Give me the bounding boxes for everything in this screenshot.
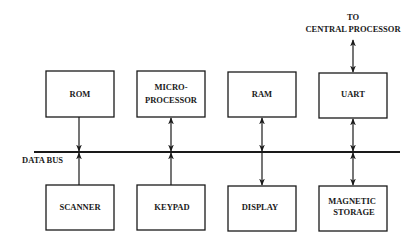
block-diagram: TO CENTRAL PROCESSOR DATA BUS ROM MICRO-… bbox=[0, 0, 419, 245]
svg-text:KEYPAD: KEYPAD bbox=[154, 202, 189, 212]
svg-text:DISPLAY: DISPLAY bbox=[242, 202, 279, 212]
block-magnetic-storage: MAGNETIC STORAGE bbox=[319, 186, 387, 231]
block-scanner: SCANNER bbox=[46, 185, 114, 230]
svg-text:MICRO-: MICRO- bbox=[154, 82, 187, 92]
data-bus-label: DATA BUS bbox=[22, 155, 63, 165]
block-keypad: KEYPAD bbox=[137, 185, 205, 230]
svg-text:MAGNETIC: MAGNETIC bbox=[328, 196, 376, 206]
block-display: DISPLAY bbox=[228, 186, 296, 231]
svg-text:SCANNER: SCANNER bbox=[59, 202, 101, 212]
svg-text:UART: UART bbox=[341, 89, 365, 99]
block-uart: UART bbox=[319, 73, 387, 118]
block-rom: ROM bbox=[46, 71, 114, 117]
svg-text:ROM: ROM bbox=[70, 89, 91, 99]
block-microprocessor: MICRO- PROCESSOR bbox=[137, 71, 205, 117]
block-ram: RAM bbox=[228, 72, 296, 117]
svg-text:CENTRAL PROCESSOR: CENTRAL PROCESSOR bbox=[305, 24, 401, 34]
svg-text:TO: TO bbox=[347, 12, 360, 22]
central-processor-label: TO CENTRAL PROCESSOR bbox=[305, 12, 401, 34]
svg-text:STORAGE: STORAGE bbox=[333, 207, 375, 217]
svg-text:PROCESSOR: PROCESSOR bbox=[145, 95, 198, 105]
svg-text:RAM: RAM bbox=[252, 89, 272, 99]
